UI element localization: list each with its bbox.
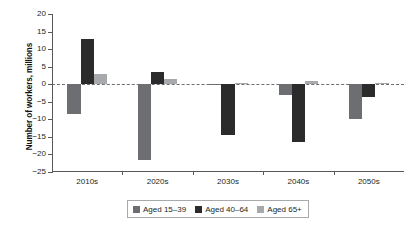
x-tick-label: 2030s — [198, 177, 258, 186]
bar — [292, 84, 305, 142]
legend-swatch-icon — [133, 206, 140, 213]
legend-item[interactable]: Aged 40–64 — [195, 205, 248, 214]
x-tick-label: 2010s — [57, 177, 117, 186]
legend-swatch-icon — [195, 206, 202, 213]
bar — [94, 74, 107, 85]
y-tick-label: −20 — [24, 149, 46, 158]
plot-area: 20151050−5−10−15−20−25 2010s2020s2030s20… — [52, 14, 404, 172]
x-axis-line — [52, 171, 404, 172]
bar — [164, 79, 177, 84]
y-tick-label: 10 — [24, 44, 46, 53]
x-tick-mark — [263, 171, 264, 175]
bar — [208, 84, 221, 85]
legend-item[interactable]: Aged 65+ — [257, 205, 301, 214]
legend-label: Aged 40–64 — [205, 205, 248, 214]
y-tick-label: 15 — [24, 27, 46, 36]
y-tick-label: 20 — [24, 9, 46, 18]
bar — [362, 84, 375, 96]
y-tick-label: −25 — [24, 167, 46, 176]
x-tick-label: 2040s — [268, 177, 328, 186]
y-tick-mark — [48, 84, 53, 85]
bar — [138, 84, 151, 159]
bar — [67, 84, 80, 114]
x-tick-label: 2020s — [128, 177, 188, 186]
bar — [279, 84, 292, 95]
legend-swatch-icon — [257, 206, 264, 213]
y-tick-label: 0 — [24, 79, 46, 88]
y-tick-label: −15 — [24, 132, 46, 141]
bar — [375, 83, 388, 84]
y-tick-label: −10 — [24, 114, 46, 123]
legend-label: Aged 15–39 — [143, 205, 186, 214]
chart-legend: Aged 15–39Aged 40–64Aged 65+ — [127, 200, 309, 218]
x-tick-mark — [334, 171, 335, 175]
y-tick-mark — [48, 14, 53, 15]
x-tick-mark — [122, 171, 123, 175]
bar-chart: Number of workers, millions 20151050−5−1… — [0, 0, 415, 226]
y-tick-mark — [48, 137, 53, 138]
y-axis-line — [52, 14, 53, 172]
x-tick-mark — [193, 171, 194, 175]
y-tick-mark — [48, 119, 53, 120]
bar — [235, 83, 248, 84]
y-tick-mark — [48, 49, 53, 50]
bar — [151, 72, 164, 84]
y-tick-mark — [48, 154, 53, 155]
legend-label: Aged 65+ — [267, 205, 301, 214]
y-tick-mark — [48, 102, 53, 103]
x-tick-label: 2050s — [339, 177, 399, 186]
bar — [221, 84, 234, 135]
y-tick-mark — [48, 32, 53, 33]
y-tick-mark — [48, 172, 53, 173]
y-tick-label: 5 — [24, 62, 46, 71]
y-tick-mark — [48, 67, 53, 68]
y-tick-label: −5 — [24, 97, 46, 106]
bar — [305, 81, 318, 85]
bar — [349, 84, 362, 119]
legend-item[interactable]: Aged 15–39 — [133, 205, 186, 214]
bar — [81, 39, 94, 85]
